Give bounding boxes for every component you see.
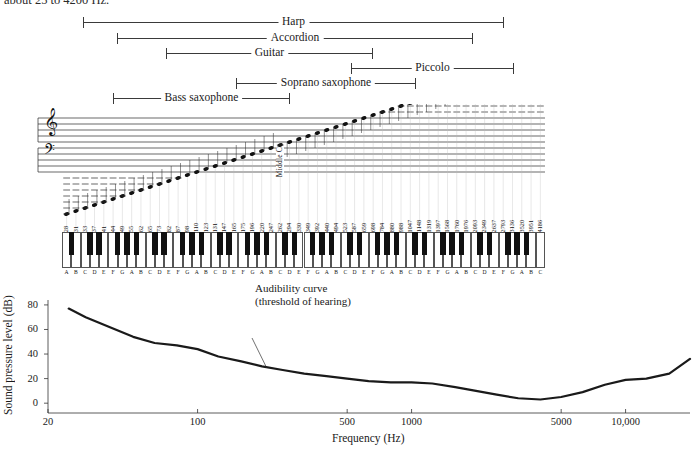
y-tick-label: 20 xyxy=(12,373,38,384)
key-frequency-label: 247 xyxy=(268,223,274,232)
audibility-chart: Sound pressure level (dB) Frequency (Hz)… xyxy=(0,288,697,451)
piano-key-label: E xyxy=(229,269,238,276)
piano-black-key[interactable] xyxy=(422,232,427,255)
piano-black-key[interactable] xyxy=(115,232,120,255)
piano-key-label: B xyxy=(526,269,535,276)
piano-black-key[interactable] xyxy=(394,232,399,255)
piano-black-key[interactable] xyxy=(264,232,269,255)
instrument-label: Accordion xyxy=(267,30,324,44)
range-end-high xyxy=(289,93,290,104)
piano-key-label: G xyxy=(248,269,257,276)
instrument-range-piccolo: Piccolo xyxy=(351,62,514,76)
piano-black-key[interactable] xyxy=(487,232,492,255)
range-end-low xyxy=(166,48,167,59)
key-frequency-label: 1976 xyxy=(463,220,469,232)
piano-black-key[interactable] xyxy=(180,232,185,255)
piano-black-key[interactable] xyxy=(199,232,204,255)
piano-black-key[interactable] xyxy=(440,232,445,255)
piano-key-label: C xyxy=(341,269,350,276)
piano-key-label: A xyxy=(322,269,331,276)
piano-black-key[interactable] xyxy=(319,232,324,255)
key-frequency-label: 587 xyxy=(351,223,357,232)
instrument-range-group: HarpAccordionGuitarPiccoloSoprano saxoph… xyxy=(0,12,697,104)
piano-black-key[interactable] xyxy=(96,232,101,255)
key-frequency-label: 3136 xyxy=(509,220,515,232)
bass-clef-icon: 𝄢 xyxy=(44,141,55,161)
piano-black-key[interactable] xyxy=(245,232,250,255)
piano-black-key[interactable] xyxy=(254,232,259,255)
piano-key-label: B xyxy=(396,269,405,276)
piano-black-key[interactable] xyxy=(347,232,352,255)
piano-key-label: C xyxy=(406,269,415,276)
range-end-low xyxy=(113,93,114,104)
piano-black-key[interactable] xyxy=(449,232,454,255)
key-frequency-label: 165 xyxy=(231,223,237,232)
piano-key-label: B xyxy=(331,269,340,276)
x-tick-label: 1000 xyxy=(382,416,442,427)
piano-key-label: F xyxy=(499,269,508,276)
y-tick-label: 40 xyxy=(12,348,38,359)
middle-c-label: Middle C xyxy=(276,147,284,177)
piano-black-key[interactable] xyxy=(124,232,129,255)
piano-black-key[interactable] xyxy=(514,232,519,255)
piano-black-key[interactable] xyxy=(375,232,380,255)
piano-key-label: G xyxy=(378,269,387,276)
piano-black-key[interactable] xyxy=(524,232,529,255)
piano-black-key[interactable] xyxy=(329,232,334,255)
x-tick-label: 5000 xyxy=(531,416,591,427)
piano-key-label: A xyxy=(257,269,266,276)
piano-key-label: B xyxy=(136,269,145,276)
piano-key-label: A xyxy=(127,269,136,276)
piano-black-key[interactable] xyxy=(69,232,74,255)
key-frequency-label: 988 xyxy=(398,223,404,232)
piano-black-key[interactable] xyxy=(226,232,231,255)
treble-clef-icon: 𝄞 xyxy=(44,107,58,136)
piano-black-key[interactable] xyxy=(282,232,287,255)
instrument-label: Harp xyxy=(278,14,309,28)
piano-white-key[interactable] xyxy=(536,232,545,268)
piano-black-key[interactable] xyxy=(505,232,510,255)
piano-keyboard[interactable]: ABCDEFGABCDEFGABCDEFGABCDEFGABCDEFGABCDE… xyxy=(20,232,503,277)
piano-black-key[interactable] xyxy=(357,232,362,255)
range-end-high xyxy=(372,48,373,59)
piano-black-key[interactable] xyxy=(134,232,139,255)
piano-black-key[interactable] xyxy=(161,232,166,255)
instrument-range-harp: Harp xyxy=(83,16,504,30)
range-end-high xyxy=(472,33,473,44)
piano-key-label: B xyxy=(266,269,275,276)
piano-black-key[interactable] xyxy=(310,232,315,255)
frequency-label-row: 2831333741444955626573828798110123131147… xyxy=(20,194,503,232)
piano-key-label: G xyxy=(443,269,452,276)
caption-text: about 25 to 4200 Hz. xyxy=(4,0,109,8)
piano-black-key[interactable] xyxy=(384,232,389,255)
key-frequency-label: 1397 xyxy=(435,220,441,232)
piano-key-label: G xyxy=(313,269,322,276)
x-tick-label: 100 xyxy=(168,416,228,427)
y-tick-label: 80 xyxy=(12,299,38,310)
piano-key-label: C xyxy=(536,269,545,276)
piano-key-label: B xyxy=(71,269,80,276)
piano-key-label: F xyxy=(238,269,247,276)
piano-black-key[interactable] xyxy=(292,232,297,255)
key-frequency-label: 294 xyxy=(286,223,292,232)
range-end-high xyxy=(513,63,514,74)
piano-key-label: D xyxy=(155,269,164,276)
piano-black-key[interactable] xyxy=(477,232,482,255)
piano-key-label: F xyxy=(369,269,378,276)
range-end-low xyxy=(83,17,84,28)
piano-black-key[interactable] xyxy=(217,232,222,255)
key-frequency-label: 698 xyxy=(370,223,376,232)
piano-key-label: E xyxy=(424,269,433,276)
piano-key-label: E xyxy=(99,269,108,276)
piano-black-key[interactable] xyxy=(189,232,194,255)
piano-black-key[interactable] xyxy=(87,232,92,255)
key-frequency-label: 2093 xyxy=(472,220,478,232)
piano-black-key[interactable] xyxy=(459,232,464,255)
piano-key-label: A xyxy=(452,269,461,276)
piano-key-label: A xyxy=(192,269,201,276)
piano-black-key[interactable] xyxy=(412,232,417,255)
key-frequency-label: 392 xyxy=(314,223,320,232)
piano-black-key[interactable] xyxy=(152,232,157,255)
key-frequency-label: 147 xyxy=(221,223,227,232)
piano-key-label: F xyxy=(108,269,117,276)
